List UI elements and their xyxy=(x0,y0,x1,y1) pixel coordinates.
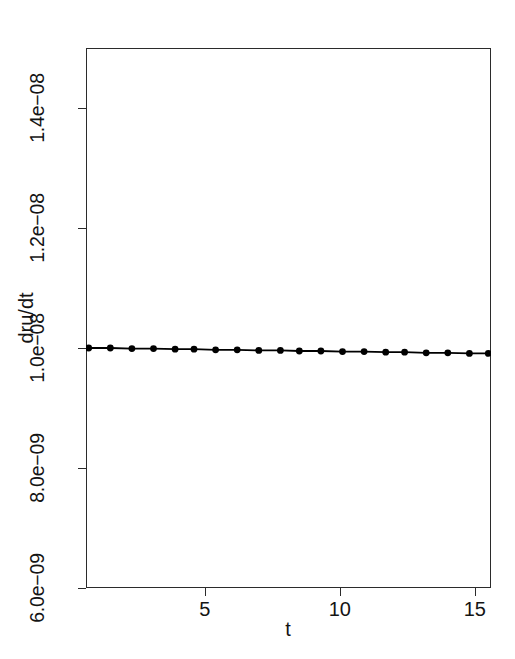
series-point xyxy=(150,345,157,352)
y-axis-title: dru/dt xyxy=(15,292,38,343)
series-point xyxy=(277,347,284,354)
series-point xyxy=(361,348,368,355)
series-point xyxy=(86,345,92,352)
chart-figure: 1.4e−081.2e−081.0e−088.0e−096.0e−09 5101… xyxy=(0,0,515,659)
series-point xyxy=(339,348,346,355)
series-point xyxy=(382,349,389,356)
series-point xyxy=(466,350,473,357)
y-tick-label-text: 1.2e−08 xyxy=(26,193,49,263)
series-point xyxy=(172,346,179,353)
series-point xyxy=(485,350,491,357)
y-tick-mark xyxy=(78,228,86,229)
series-point xyxy=(234,346,241,353)
y-tick-mark xyxy=(78,348,86,349)
y-tick-label-text: 1.4e−08 xyxy=(26,73,49,143)
data-layer xyxy=(86,48,491,588)
data-series xyxy=(86,345,491,357)
y-tick-label-text: 6.0e−09 xyxy=(26,553,49,623)
x-tick-label: 10 xyxy=(329,598,351,621)
series-point xyxy=(129,345,136,352)
series-point xyxy=(401,349,408,356)
x-axis-title: t xyxy=(285,618,291,641)
x-tick-mark xyxy=(205,588,206,596)
series-point xyxy=(423,349,430,356)
series-point xyxy=(255,347,262,354)
y-tick-label-text: 8.0e−09 xyxy=(26,433,49,503)
series-point xyxy=(318,348,325,355)
x-tick-mark xyxy=(475,588,476,596)
series-point xyxy=(212,346,219,353)
y-tick-mark xyxy=(78,108,86,109)
series-point xyxy=(107,345,114,352)
y-tick-mark xyxy=(78,588,86,589)
x-tick-label: 5 xyxy=(199,598,210,621)
series-point xyxy=(191,346,198,353)
series-point xyxy=(296,348,303,355)
x-tick-mark xyxy=(340,588,341,596)
y-tick-mark xyxy=(78,468,86,469)
series-point xyxy=(444,349,451,356)
x-tick-label: 15 xyxy=(464,598,486,621)
